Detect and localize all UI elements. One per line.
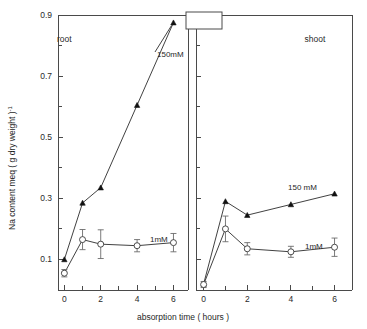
data-point-marker	[61, 270, 67, 276]
data-point-marker	[332, 191, 337, 196]
data-point-marker	[134, 243, 140, 249]
data-point-marker	[244, 246, 250, 252]
data-point-marker	[80, 237, 86, 243]
x-tick-label: 2	[98, 294, 103, 304]
series-label-shoot-1mm: 1mM	[305, 242, 323, 251]
top-cover-box	[186, 12, 222, 29]
data-point-marker	[223, 199, 228, 204]
data-point-marker	[171, 20, 176, 25]
panel-label-shoot: shoot	[305, 34, 326, 44]
x-tick-label: 6	[332, 294, 337, 304]
data-point-marker	[288, 249, 294, 255]
panel-root: 0.10.30.50.70.90246 root 150mM 1mM	[40, 10, 188, 304]
y-tick-label: 0.3	[40, 193, 52, 203]
leader-line-root-150mm	[155, 26, 171, 52]
series-label-root-150mm: 150mM	[157, 50, 184, 59]
y-tick-label: 0.1	[40, 254, 52, 264]
panel-shoot-tick-labels: 0246	[201, 294, 337, 304]
y-axis-title: Na content meq ( g dry weight )-1	[7, 105, 17, 230]
x-tick-label: 0	[62, 294, 67, 304]
panel-shoot-frame	[196, 15, 352, 290]
x-tick-label: 6	[171, 294, 176, 304]
y-tick-label: 0.9	[40, 10, 52, 20]
data-point-marker	[201, 282, 207, 288]
y-tick-label: 0.7	[40, 71, 52, 81]
series-line-1mm	[64, 240, 173, 274]
series-line-1mm	[204, 229, 335, 285]
x-tick-label: 0	[201, 294, 206, 304]
x-axis-title: absorption time ( hours )	[137, 312, 229, 322]
data-point-marker	[134, 102, 139, 107]
x-tick-label: 4	[135, 294, 140, 304]
data-point-marker	[222, 226, 228, 232]
panel-shoot-series	[201, 191, 338, 288]
series-label-root-1mm: 1mM	[150, 235, 168, 244]
data-point-marker	[98, 185, 103, 190]
figure-root: Na content meq ( g dry weight )-1 absorp…	[0, 0, 367, 329]
y-tick-label: 0.5	[40, 132, 52, 142]
series-label-shoot-150mm: 150 mM	[288, 183, 317, 192]
x-tick-label: 2	[245, 294, 250, 304]
x-tick-label: 4	[289, 294, 294, 304]
panel-label-root: root	[57, 34, 72, 44]
data-point-marker	[170, 240, 176, 246]
data-point-marker	[98, 241, 104, 247]
series-line-150mm	[204, 194, 335, 284]
panel-shoot: 0246 shoot 150 mM 1mM	[196, 15, 352, 304]
data-point-marker	[332, 244, 338, 250]
chart-canvas: Na content meq ( g dry weight )-1 absorp…	[0, 0, 367, 329]
